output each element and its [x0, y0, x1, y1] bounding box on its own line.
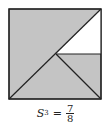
fraction-denominator: 8 — [67, 114, 73, 123]
caption: S3 = 7 8 — [0, 101, 111, 125]
caption-label: S — [37, 107, 45, 120]
caption-subscript: 3 — [44, 109, 48, 117]
fraction-numerator: 7 — [66, 104, 74, 114]
fraction: 7 8 — [66, 104, 74, 123]
caption-equals: = — [53, 107, 62, 120]
figure: S3 = 7 8 — [0, 0, 111, 126]
